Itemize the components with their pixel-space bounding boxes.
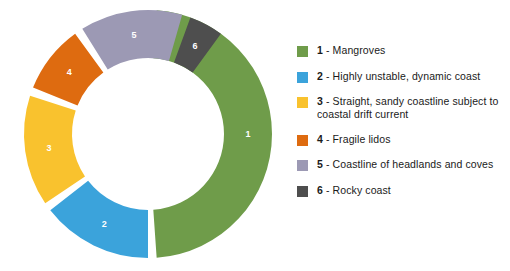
legend-separator: - [323, 44, 333, 56]
legend-item-5[interactable]: 5 - Coastline of headlands and coves [297, 158, 505, 171]
legend-swatch-1 [297, 46, 308, 57]
legend-item-4[interactable]: 4 - Fragile lidos [297, 133, 505, 146]
legend-separator: - [323, 133, 333, 145]
legend-item-2[interactable]: 2 - Highly unstable, dynamic coast [297, 70, 505, 83]
slice-label-6: 6 [192, 41, 197, 51]
legend-label-6: 6 - Rocky coast [317, 184, 391, 197]
legend-label-1: 1 - Mangroves [317, 44, 385, 57]
donut-chart-svg: 123456 [0, 0, 290, 271]
chart-legend: 1 - Mangroves2 - Highly unstable, dynami… [297, 44, 505, 209]
legend-swatch-2 [297, 72, 308, 83]
legend-item-3[interactable]: 3 - Straight, sandy coastline subject to… [297, 95, 505, 120]
legend-name-2: Highly unstable, dynamic coast [333, 70, 481, 82]
legend-swatch-4 [297, 135, 308, 146]
legend-separator: - [323, 184, 333, 196]
legend-name-5: Coastline of headlands and coves [333, 158, 494, 170]
legend-label-3: 3 - Straight, sandy coastline subject to… [317, 95, 505, 120]
donut-slice-group [24, 10, 272, 258]
slice-label-5: 5 [132, 30, 137, 40]
legend-separator: - [323, 70, 333, 82]
legend-item-6[interactable]: 6 - Rocky coast [297, 184, 505, 197]
legend-name-4: Fragile lidos [333, 133, 391, 145]
legend-separator: - [323, 158, 333, 170]
slice-label-4: 4 [67, 67, 72, 77]
legend-label-5: 5 - Coastline of headlands and coves [317, 158, 493, 171]
legend-item-1[interactable]: 1 - Mangroves [297, 44, 505, 57]
legend-name-1: Mangroves [333, 44, 386, 56]
legend-label-4: 4 - Fragile lidos [317, 133, 391, 146]
legend-name-3: Straight, sandy coastline subject to coa… [317, 95, 498, 120]
donut-slice-highly-unstable-dynamic-coast[interactable] [50, 181, 148, 258]
legend-label-2: 2 - Highly unstable, dynamic coast [317, 70, 480, 83]
donut-slice-straight-sandy-coastline[interactable] [24, 96, 85, 204]
slice-label-1: 1 [245, 129, 250, 139]
legend-swatch-5 [297, 160, 308, 171]
donut-chart-figure: 123456 1 - Mangroves2 - Highly unstable,… [0, 0, 510, 271]
slice-label-2: 2 [102, 219, 107, 229]
legend-swatch-3 [297, 97, 308, 108]
legend-name-6: Rocky coast [333, 184, 391, 196]
legend-swatch-6 [297, 186, 308, 197]
legend-separator: - [323, 95, 333, 107]
slice-label-3: 3 [46, 143, 51, 153]
